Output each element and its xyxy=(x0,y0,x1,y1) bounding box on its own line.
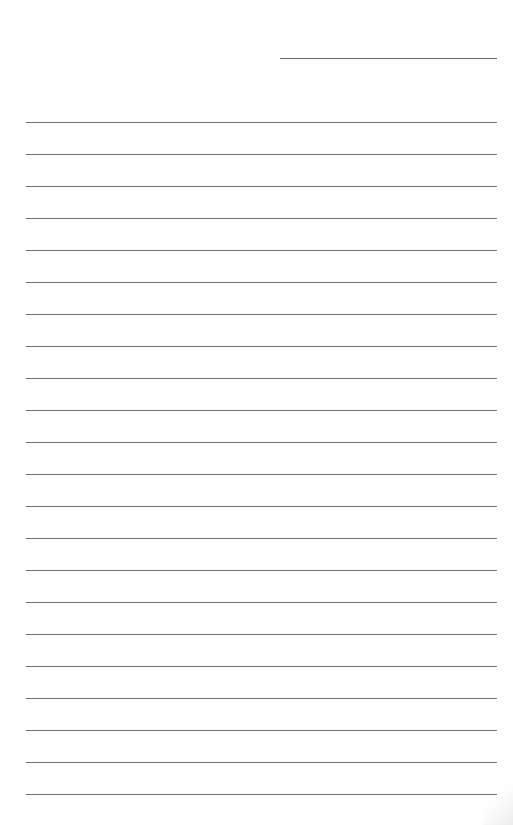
ruled-line xyxy=(26,570,497,571)
ruled-line xyxy=(26,378,497,379)
ruled-line xyxy=(26,282,497,283)
ruled-line xyxy=(26,410,497,411)
ruled-line xyxy=(26,314,497,315)
ruled-line xyxy=(26,538,497,539)
ruled-line xyxy=(26,730,497,731)
ruled-line xyxy=(26,794,497,795)
ruled-line xyxy=(26,186,497,187)
ruled-line xyxy=(26,154,497,155)
ruled-line xyxy=(26,506,497,507)
lined-paper-page xyxy=(0,0,513,825)
ruled-line xyxy=(26,346,497,347)
page-corner-shadow xyxy=(483,785,513,825)
ruled-line xyxy=(26,634,497,635)
ruled-line xyxy=(26,250,497,251)
ruled-line xyxy=(26,218,497,219)
ruled-line xyxy=(26,602,497,603)
ruled-line xyxy=(26,122,497,123)
ruled-line xyxy=(26,442,497,443)
header-name-line xyxy=(280,58,497,59)
ruled-line xyxy=(26,474,497,475)
ruled-line xyxy=(26,698,497,699)
ruled-line xyxy=(26,762,497,763)
ruled-line xyxy=(26,666,497,667)
